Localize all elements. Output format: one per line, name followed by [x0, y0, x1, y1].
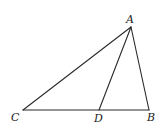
vertex-label-a: A — [125, 13, 134, 26]
vertex-label-c: C — [11, 111, 20, 124]
point-label-d: D — [93, 112, 103, 125]
triangle-diagram: A C D B — [0, 0, 164, 136]
triangle-figure: A C D B — [0, 0, 164, 136]
vertex-label-b: B — [146, 111, 155, 124]
segment-AB — [131, 27, 149, 110]
